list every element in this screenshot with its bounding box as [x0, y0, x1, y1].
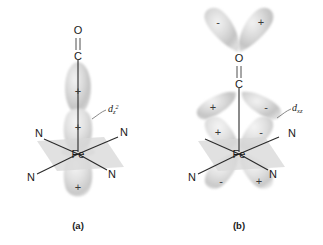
- orbital-diagram-figure: O C Fe N N N N + + + dz2 (a): [0, 0, 323, 245]
- panel-a-label-n-1: N: [35, 127, 43, 139]
- panel-b-label-n-1: N: [288, 127, 296, 139]
- panel-b-label-oxygen: O: [235, 52, 244, 64]
- panel-a-sign-3: +: [75, 181, 81, 193]
- panel-a-sign-1: +: [75, 85, 81, 97]
- panel-b-label-metal: Fe: [233, 148, 246, 160]
- panel-b-label-n-3: N: [269, 168, 277, 180]
- panel-b-sign-7: -: [219, 175, 223, 187]
- panel-b-sign-6: -: [259, 126, 263, 138]
- panel-a-label-n-3: N: [27, 171, 35, 183]
- panel-a-caption: (a): [72, 220, 84, 231]
- figure-background: [0, 0, 323, 245]
- panel-b-sign-1: -: [216, 16, 220, 28]
- panel-b-sign-5: +: [215, 126, 221, 138]
- panel-b-label-n-2: N: [188, 171, 196, 183]
- figure-canvas: O C Fe N N N N + + + dz2 (a): [0, 0, 323, 245]
- panel-b-sign-8: +: [256, 175, 262, 187]
- panel-a-label-n-2: N: [120, 126, 128, 138]
- panel-a-sign-2: +: [75, 121, 81, 133]
- panel-b-caption: (b): [233, 220, 245, 231]
- panel-a-label-carbon: C: [74, 50, 82, 62]
- panel-a-label-oxygen: O: [74, 24, 83, 36]
- panel-a-label-n-4: N: [108, 168, 116, 180]
- panel-b-orbital-label-sub: xz: [296, 107, 303, 114]
- panel-b-sign-3: +: [210, 101, 216, 113]
- panel-b-label-carbon: C: [235, 78, 243, 90]
- panel-a-orbital-label-sup: 2: [116, 104, 119, 110]
- panel-a-label-metal: Fe: [72, 148, 85, 160]
- panel-b-sign-2: +: [258, 16, 264, 28]
- panel-b-sign-4: -: [264, 101, 268, 113]
